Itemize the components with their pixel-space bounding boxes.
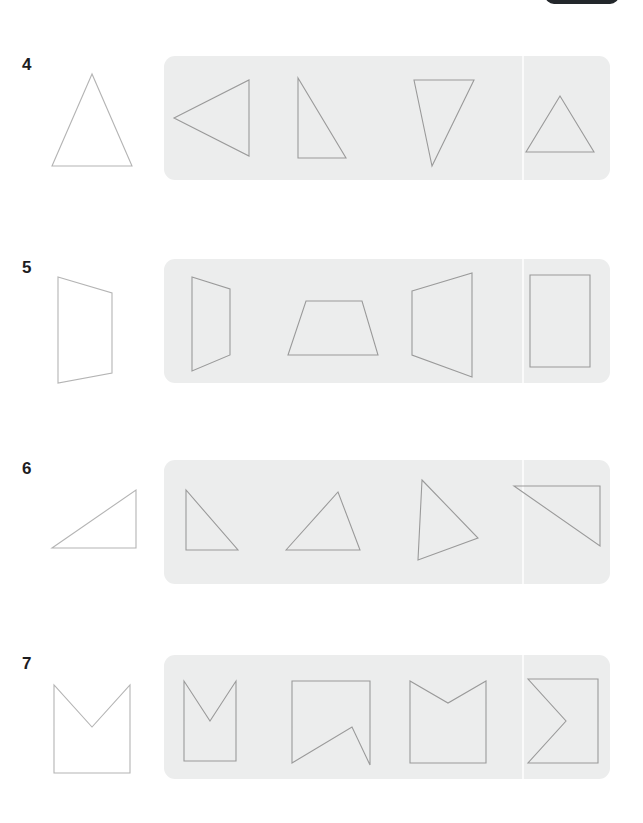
square-with-v-notch-bottom-icon <box>292 681 370 765</box>
option-slot-4[interactable] <box>504 259 610 383</box>
reference-shape-row-6 <box>40 466 160 586</box>
option-slot-3[interactable] <box>396 655 508 779</box>
rectangle-upright-icon <box>530 275 590 367</box>
option-slot-3[interactable] <box>396 460 508 584</box>
square-with-v-notch-top-icon <box>54 685 130 773</box>
row-number-label: 6 <box>22 460 31 477</box>
options-panel-row-5 <box>164 259 610 383</box>
trapezoid-vertical-left-slanted-right-icon <box>412 273 472 377</box>
option-slot-1[interactable] <box>164 56 276 180</box>
isoceles-triangle-upright-icon <box>52 74 132 166</box>
equilateral-triangle-upright-icon <box>526 96 594 152</box>
square-with-v-notch-top-deep-icon <box>184 681 236 761</box>
option-slot-4[interactable] <box>504 56 610 180</box>
option-slot-1[interactable] <box>164 655 276 779</box>
narrow-triangle-pointing-down-icon <box>414 80 474 166</box>
right-triangle-top-horizontal-right-vertical-icon <box>514 486 600 546</box>
option-slot-2[interactable] <box>276 56 388 180</box>
right-triangle-apex-top-right-icon <box>52 490 136 548</box>
reference-shape-row-5 <box>40 265 160 385</box>
square-with-v-notch-left-icon <box>528 679 598 763</box>
option-slot-4[interactable] <box>504 460 610 584</box>
right-triangle-vertical-left-hypotenuse-down-right-icon <box>186 490 238 550</box>
reference-shape-row-4 <box>40 62 160 182</box>
options-panel-row-6 <box>164 460 610 584</box>
right-triangle-apex-top-right-wide-icon <box>286 492 360 550</box>
option-slot-3[interactable] <box>396 56 508 180</box>
options-panel-row-7 <box>164 655 610 779</box>
row-number-label: 7 <box>22 655 31 672</box>
option-slot-2[interactable] <box>276 259 388 383</box>
option-slot-1[interactable] <box>164 259 276 383</box>
right-triangle-apex-top-left-tall-icon <box>418 480 478 560</box>
narrow-trapezoid-vertical-left-icon <box>192 277 230 371</box>
wide-trapezoid-base-down-icon <box>288 301 378 355</box>
quadrilateral-slanted-left-edge-icon <box>58 277 112 383</box>
option-slot-2[interactable] <box>276 460 388 584</box>
reference-shape-row-7 <box>40 661 160 781</box>
options-panel-row-4 <box>164 56 610 180</box>
row-number-label: 4 <box>22 56 31 73</box>
partial-pill-cutoff-icon <box>545 0 619 4</box>
right-triangle-vertical-left-icon <box>298 78 346 158</box>
option-slot-1[interactable] <box>164 460 276 584</box>
option-slot-4[interactable] <box>504 655 610 779</box>
option-slot-2[interactable] <box>276 655 388 779</box>
option-slot-3[interactable] <box>396 259 508 383</box>
square-with-v-notch-top-shallow-icon <box>410 681 486 763</box>
triangle-pointing-left-icon <box>174 80 249 156</box>
row-number-label: 5 <box>22 259 31 276</box>
